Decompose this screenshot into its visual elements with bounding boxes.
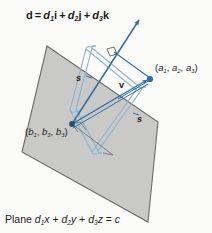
plane-equals: = bbox=[103, 213, 115, 225]
paren-close-a: ) bbox=[194, 62, 197, 73]
plus-1: + bbox=[57, 9, 68, 21]
distance-label-left: s bbox=[76, 74, 81, 83]
point-a-marker bbox=[147, 76, 153, 82]
equals-sign: = bbox=[33, 9, 44, 21]
term3-coef: d bbox=[92, 9, 99, 21]
vector-plane-diagram: d=d1i+d2j+d3k (a1, a2, a3) (b1, b3, b3) … bbox=[0, 0, 212, 233]
plane-word: Plane bbox=[5, 213, 35, 225]
plane-plus-2: + bbox=[76, 213, 88, 225]
term2-coef: d bbox=[68, 9, 75, 21]
plus-2: + bbox=[82, 9, 93, 21]
unit-vector-k: k bbox=[103, 9, 109, 21]
right-angle-icon bbox=[107, 47, 117, 56]
distance-label-right: s bbox=[137, 115, 142, 124]
point-b-label: (b1, b3, b3) bbox=[25, 127, 68, 139]
plane-plus-1: + bbox=[50, 213, 62, 225]
point-a-label: (a1, a2, a3) bbox=[155, 63, 198, 75]
paren-close-b: ) bbox=[64, 126, 67, 137]
plane-equation-caption: Plane d1x + d2y + d3z = c bbox=[5, 214, 120, 226]
vector-d-symbol: d bbox=[26, 9, 33, 21]
normal-vector-equation-label: d=d1i+d2j+d3k bbox=[26, 10, 109, 23]
vector-v-label: v bbox=[119, 81, 124, 90]
perpendicular-segment bbox=[114, 52, 150, 78]
diagram-canvas bbox=[0, 0, 212, 233]
point-b-marker bbox=[69, 121, 75, 127]
plane-rhs: c bbox=[115, 213, 120, 225]
